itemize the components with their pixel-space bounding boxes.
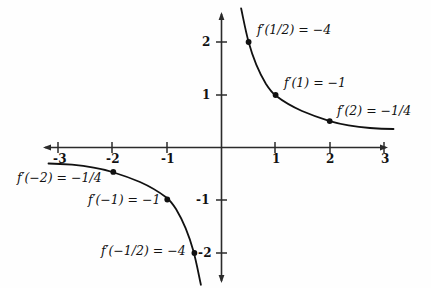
data-point-two bbox=[327, 118, 333, 124]
figure-canvas: -3 -2 -1 1 2 3 2 1 -1 -2 f′(1/2) = −4 f′… bbox=[0, 0, 431, 288]
x-tick-label-3: 3 bbox=[381, 153, 390, 165]
y-tick-label-neg2: -2 bbox=[198, 247, 212, 259]
x-tick-label-neg1: -1 bbox=[161, 153, 175, 165]
reciprocal-function-plot bbox=[0, 0, 431, 288]
annotation-f-prime-two: f′(2) = −1/4 bbox=[337, 105, 411, 118]
data-point-one bbox=[273, 92, 279, 98]
x-axis bbox=[43, 142, 388, 153]
y-axis-top-arrow-icon bbox=[219, 12, 225, 20]
data-point-neg-half bbox=[192, 250, 198, 256]
x-tick-label-neg2: -2 bbox=[106, 153, 120, 165]
data-point-neg-one bbox=[164, 197, 170, 203]
annotation-f-prime-neg-one: f′(−1) = −1 bbox=[88, 194, 161, 207]
data-point-neg-two bbox=[110, 169, 116, 175]
y-tick-label-2: 2 bbox=[202, 36, 211, 48]
y-axis-bottom-arrow-icon bbox=[219, 275, 225, 283]
data-point-half bbox=[246, 39, 252, 45]
annotation-f-prime-neg-two: f′(−2) = −1/4 bbox=[17, 172, 102, 185]
x-axis-left-arrow-icon bbox=[43, 145, 51, 151]
annotation-f-prime-neg-half: f′(−1/2) = −4 bbox=[101, 245, 186, 258]
x-tick-label-neg3: -3 bbox=[53, 153, 67, 165]
annotation-f-prime-one: f′(1) = −1 bbox=[284, 77, 346, 90]
y-tick-label-1: 1 bbox=[202, 89, 211, 101]
x-tick-label-1: 1 bbox=[272, 153, 281, 165]
annotation-f-prime-half: f′(1/2) = −4 bbox=[257, 24, 331, 37]
x-tick-label-2: 2 bbox=[326, 153, 335, 165]
y-tick-label-neg1: -1 bbox=[196, 194, 210, 206]
